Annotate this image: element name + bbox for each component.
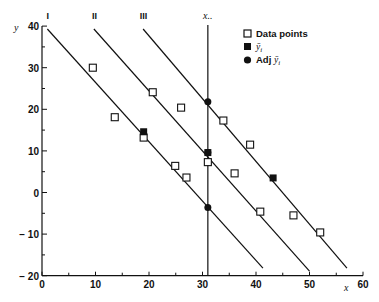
y-tick-label: 10 — [28, 146, 40, 157]
legend: Data points ȳi Adj ȳi — [244, 28, 308, 67]
line-label-i: I — [47, 11, 50, 21]
legend-label-mean: ȳi — [255, 42, 262, 54]
mean-point-filled-square — [270, 174, 277, 181]
x-tick-label: 10 — [90, 279, 102, 290]
data-point-open-square — [247, 141, 254, 148]
x-axis-title: x — [343, 282, 349, 293]
legend-label-adjusted-mean: Adj ȳi — [256, 54, 280, 67]
line-label-iii: III — [140, 11, 148, 21]
y-tick-label: − 10 — [19, 229, 39, 240]
fitted-line-i — [47, 29, 263, 268]
x-tick-label: 50 — [304, 279, 316, 290]
chart: 0102030405060− 20− 10010203040 IIIIII x.… — [0, 0, 379, 302]
fitted-lines: IIIIII — [47, 11, 347, 271]
axes: 0102030405060− 20− 10010203040 — [19, 21, 369, 290]
x-tick-label: 60 — [357, 279, 369, 290]
y-tick-label: 40 — [28, 21, 40, 32]
data-point-open-square — [257, 208, 264, 215]
adjusted-mean-point-filled-circle — [204, 204, 211, 211]
data-point-open-square — [172, 162, 179, 169]
line-label-ii: II — [92, 11, 97, 21]
mean-point-filled-square — [140, 128, 147, 135]
y-tick-label: 0 — [33, 188, 39, 199]
y-axis-title: y — [13, 22, 19, 33]
y-tick-label: 20 — [28, 104, 40, 115]
x-tick-label: 30 — [197, 279, 209, 290]
data-point-open-square — [220, 117, 227, 124]
data-point-open-square — [204, 159, 211, 166]
reference-line-x-bar: x.. — [202, 10, 212, 276]
data-point-open-square — [231, 170, 238, 177]
open-square-icon — [244, 30, 251, 37]
filled-square-icon — [244, 43, 251, 50]
y-tick-label: − 20 — [19, 271, 39, 282]
x-tick-label: 20 — [143, 279, 155, 290]
data-point-open-square — [317, 229, 324, 236]
adjusted-mean-point-filled-circle — [204, 149, 211, 156]
data-point-open-square — [183, 174, 190, 181]
y-tick-label: 30 — [28, 63, 40, 74]
filled-circle-icon — [244, 56, 251, 63]
data-point-open-square — [290, 212, 297, 219]
data-markers — [89, 64, 323, 236]
x-tick-label: 40 — [250, 279, 262, 290]
fitted-line-ii — [94, 29, 310, 271]
data-point-open-square — [111, 114, 118, 121]
reference-line-label: x.. — [202, 10, 212, 21]
data-point-open-square — [89, 64, 96, 71]
data-point-open-square — [178, 104, 185, 111]
legend-label-data-points: Data points — [256, 28, 308, 39]
data-point-open-square — [149, 89, 156, 96]
x-tick-label: 0 — [39, 279, 45, 290]
adjusted-mean-point-filled-circle — [204, 98, 211, 105]
